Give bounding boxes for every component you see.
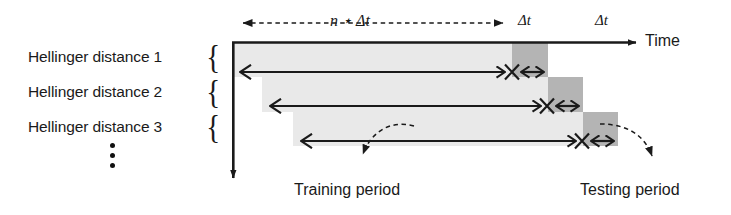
delta-t-label-2: Δt [595, 13, 608, 28]
ellipsis-dot [110, 143, 115, 148]
time-axis-label: Time [645, 33, 680, 49]
brace-row-2: { [206, 75, 220, 109]
span-label-n-delta-t: n ⋆ Δt [330, 13, 370, 29]
testing-period-label: Testing period [580, 182, 680, 198]
rows-ellipsis [110, 143, 115, 173]
row-label-hellinger-distance-3: Hellinger distance 3 [28, 119, 162, 135]
delta-t-label-1: Δt [518, 13, 531, 28]
row-label-hellinger-distance-1: Hellinger distance 1 [28, 49, 162, 65]
ellipsis-dot [110, 153, 115, 158]
brace-row-3: { [206, 110, 220, 144]
ellipsis-dot [110, 163, 115, 168]
training-period-label: Training period [294, 182, 400, 198]
row-label-hellinger-distance-2: Hellinger distance 2 [28, 84, 162, 100]
brace-row-1: { [206, 40, 220, 74]
figure-canvas: Hellinger distance 1 Hellinger distance … [0, 0, 731, 215]
